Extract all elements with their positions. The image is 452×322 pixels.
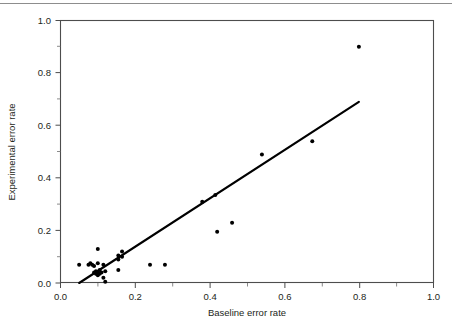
data-point — [357, 45, 361, 49]
data-point — [100, 271, 104, 275]
data-point — [120, 255, 124, 259]
data-point-series — [77, 45, 361, 284]
x-axis-minor-ticks — [98, 283, 397, 287]
y-tick-label-5: 1.0 — [38, 15, 51, 26]
data-point — [213, 193, 217, 197]
y-axis-title: Experimental error rate — [6, 103, 17, 200]
plot-frame — [61, 21, 434, 283]
data-point — [103, 280, 107, 284]
x-axis: 0.0 0.2 0.4 0.6 0.8 1.0 Baseline error r… — [54, 283, 440, 318]
scatter-plot: 0.0 0.2 0.4 0.6 0.8 1.0 Baseline error r… — [0, 0, 452, 322]
x-tick-label-2: 0.4 — [203, 291, 216, 302]
x-axis-major-ticks — [61, 283, 434, 288]
data-point — [103, 269, 107, 273]
y-tick-label-2: 0.4 — [38, 172, 51, 183]
y-axis: 0.0 0.2 0.4 0.6 0.8 1.0 Experimental err… — [6, 15, 61, 289]
data-point — [101, 263, 105, 267]
data-point — [230, 221, 234, 225]
x-tick-label-4: 0.8 — [353, 291, 366, 302]
figure-root: 0.0 0.2 0.4 0.6 0.8 1.0 Baseline error r… — [0, 0, 452, 322]
x-tick-label-3: 0.6 — [278, 291, 291, 302]
x-tick-label-0: 0.0 — [54, 291, 67, 302]
y-tick-label-3: 0.6 — [38, 120, 51, 131]
data-point — [120, 250, 124, 254]
x-axis-title: Baseline error rate — [208, 307, 286, 318]
data-point — [101, 276, 105, 280]
data-point — [148, 263, 152, 267]
data-point — [215, 230, 219, 234]
x-tick-label-1: 0.2 — [129, 291, 142, 302]
data-point — [310, 139, 314, 143]
data-point — [116, 257, 120, 261]
data-point — [77, 263, 81, 267]
data-point — [96, 247, 100, 251]
y-tick-label-0: 0.0 — [38, 278, 51, 289]
data-point — [96, 261, 100, 265]
data-point — [116, 268, 120, 272]
y-tick-label-1: 0.2 — [38, 225, 51, 236]
data-point — [163, 263, 167, 267]
data-point — [92, 264, 96, 268]
y-tick-label-4: 0.8 — [38, 67, 51, 78]
data-point — [116, 253, 120, 257]
x-tick-label-5: 1.0 — [427, 291, 440, 302]
data-point — [200, 200, 204, 204]
data-point — [260, 152, 264, 156]
